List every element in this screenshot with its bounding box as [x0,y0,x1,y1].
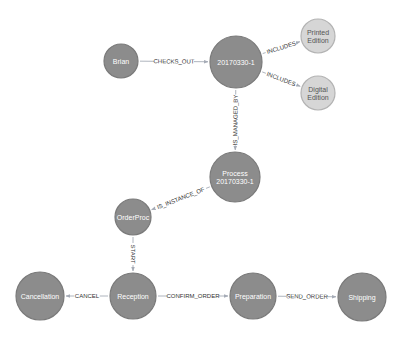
node-label: Process [222,170,248,177]
edge-includes[interactable]: INCLUDES [262,71,300,87]
edge-includes[interactable]: INCLUDES [263,40,300,55]
node-label: Preparation [235,293,271,301]
edge-label: CANCEL [75,293,100,299]
edge-label: INCLUDES [266,71,297,87]
node-label: 20170330-1 [217,59,254,66]
edge-label: SEND_ORDER [286,293,328,299]
node-order[interactable]: 20170330-1 [210,36,262,88]
edge-start[interactable]: START [130,237,136,271]
edge-is-instance-of[interactable]: IS_INSTANCE_OF [152,186,210,210]
edge-label: CONFIRM_ORDER [166,293,220,299]
edge-confirm-order[interactable]: CONFIRM_ORDER [158,293,228,299]
edge-checks-out[interactable]: CHECKS_OUT [140,58,208,64]
node-label: Cancellation [21,293,60,300]
node-label: Printed [307,29,329,36]
edges-layer: CHECKS_OUTINCLUDESINCLUDESIS_MANAGED_BYI… [66,40,336,299]
edge-label: START [130,244,136,263]
node-label: Reception [117,293,149,301]
node-orderproc[interactable]: OrderProc [115,199,151,235]
node-reception[interactable]: Reception [110,273,156,319]
edge-label: CHECKS_OUT [153,58,194,64]
node-digital[interactable]: DigitalEdition [301,76,335,110]
node-label: 20170330-1 [216,178,253,185]
node-label: Shipping [348,294,375,302]
node-label: OrderProc [117,214,150,221]
node-shipping[interactable]: Shipping [338,273,386,321]
edge-label: IS_INSTANCE_OF [156,186,206,210]
edge-cancel[interactable]: CANCEL [66,293,108,299]
node-label: Edition [307,94,329,101]
node-printed[interactable]: PrintedEdition [301,19,335,53]
node-process[interactable]: Process20170330-1 [210,152,260,202]
edge-send-order[interactable]: SEND_ORDER [278,293,336,299]
graph-canvas[interactable]: CHECKS_OUTINCLUDESINCLUDESIS_MANAGED_BYI… [0,0,397,340]
node-brian[interactable]: Brian [104,44,138,78]
node-cancellation[interactable]: Cancellation [16,272,64,320]
nodes-layer: Brian20170330-1PrintedEditionDigitalEdit… [16,19,386,321]
edge-label: IS_MANAGED_BY [232,95,238,146]
node-label: Brian [113,58,129,65]
node-label: Edition [307,37,329,44]
edge-is-managed-by[interactable]: IS_MANAGED_BY [232,90,238,150]
node-preparation[interactable]: Preparation [230,273,276,319]
node-label: Digital [308,86,328,94]
edge-label: INCLUDES [266,40,297,55]
